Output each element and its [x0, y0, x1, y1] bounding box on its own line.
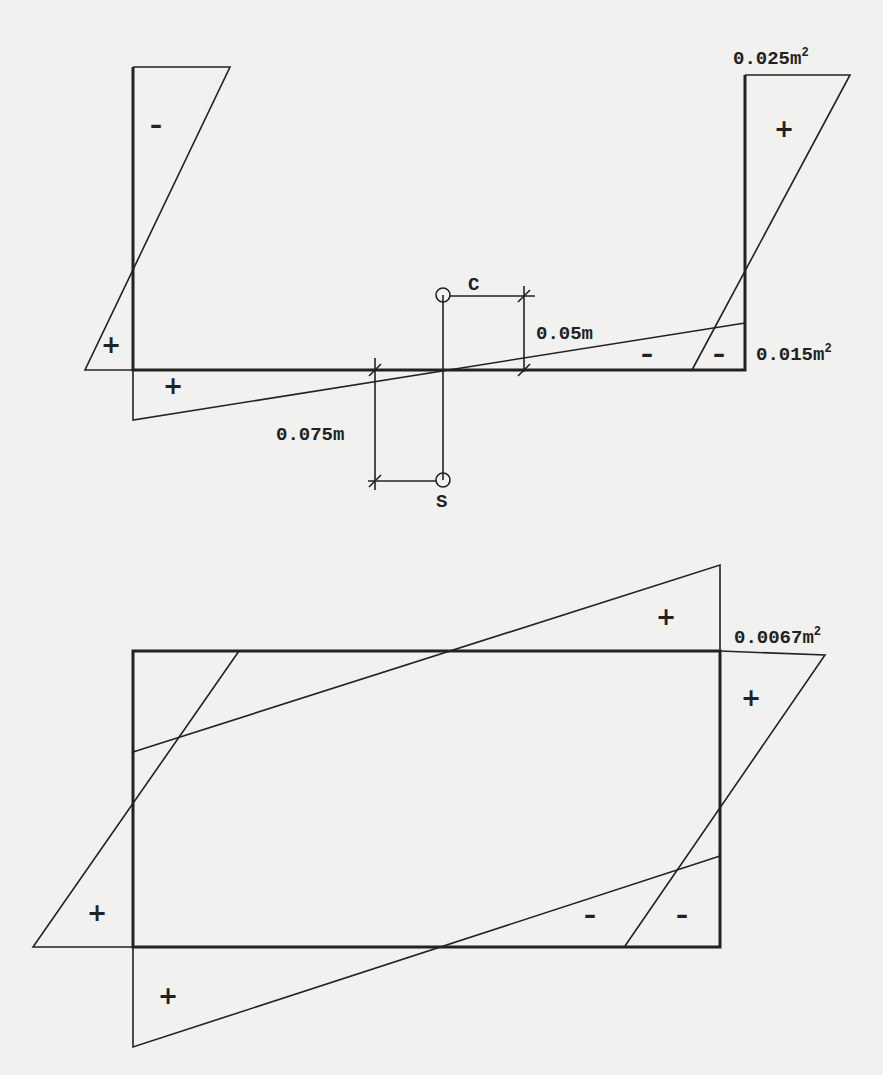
- sign-plus: +: [158, 982, 178, 1010]
- shear-center-label: S: [436, 491, 447, 513]
- sign-plus: +: [741, 684, 761, 712]
- shear-center-offset-label: 0.075m: [276, 424, 344, 446]
- right-flange-diagram: [692, 75, 850, 370]
- centroid-label: C: [468, 274, 479, 296]
- flange-area-label: 0.025m2: [733, 46, 809, 70]
- bottom-figure: 0.0067m2 + + + + – –: [33, 565, 825, 1047]
- centroid-offset-label: 0.05m: [536, 323, 593, 345]
- sign-minus: –: [713, 340, 725, 368]
- top-figure: 0.025m2 0.015m2 0.05m 0.075m C S – + + +…: [85, 46, 850, 513]
- sign-plus: +: [101, 331, 121, 359]
- web-area-label: 0.015m2: [756, 342, 832, 366]
- right-web-diagram: [625, 651, 825, 946]
- sign-plus: +: [87, 899, 107, 927]
- channel-section-outline: [133, 67, 745, 370]
- sign-minus: –: [676, 901, 688, 929]
- sign-plus: +: [656, 603, 676, 631]
- sign-plus: +: [774, 115, 794, 143]
- left-web-diagram: [33, 651, 239, 947]
- bottom-flange-diagram: [133, 856, 720, 1047]
- box-area-label: 0.0067m2: [734, 625, 821, 649]
- sign-minus: –: [150, 111, 162, 139]
- diagram-canvas: 0.025m2 0.015m2 0.05m 0.075m C S – + + +…: [0, 0, 883, 1075]
- sign-plus: +: [163, 372, 183, 400]
- sign-minus: –: [584, 901, 596, 929]
- sign-minus: –: [641, 340, 653, 368]
- box-section-outline: [133, 651, 720, 947]
- top-flange-diagram: [133, 565, 720, 752]
